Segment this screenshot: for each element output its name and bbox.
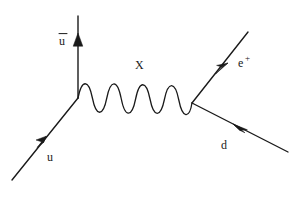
label-up-quark: u — [47, 150, 53, 164]
exchange-boson-x-line — [78, 84, 192, 115]
label-down-quark: d — [221, 138, 227, 152]
u-bar-arrow-icon — [73, 33, 83, 46]
boson-wave-path — [78, 84, 192, 115]
feynman-diagram-canvas: u X e + u d — [0, 0, 304, 200]
label-positron-base: e — [238, 56, 243, 70]
label-anti-up-quark: u — [59, 34, 68, 48]
u-quark-arrow-icon-fill — [36, 136, 46, 142]
feynman-diagram-svg: u X e + u d — [0, 0, 304, 200]
incoming-up-quark-line — [12, 98, 78, 180]
label-positron: e + — [238, 53, 250, 70]
outgoing-down-quark-line — [192, 103, 288, 152]
label-positron-superscript: + — [245, 53, 250, 63]
label-boson-x: X — [135, 58, 144, 72]
outgoing-anti-up-quark-line — [73, 16, 83, 98]
label-anti-up-quark-text: u — [59, 34, 65, 48]
